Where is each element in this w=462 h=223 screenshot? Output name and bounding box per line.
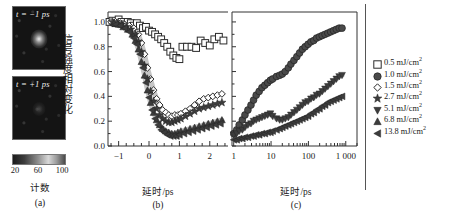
open-diamond-icon bbox=[372, 79, 383, 90]
bragg-spot bbox=[31, 30, 48, 49]
x-tick-label: 1 bbox=[231, 151, 236, 161]
legend-item-label: 2.7 mJ/cm2 bbox=[384, 90, 422, 101]
y-axis-label: 信号强度相对变化 bbox=[58, 34, 72, 114]
x-tick-label: 2 bbox=[208, 151, 213, 161]
filled-down-triangle-icon bbox=[372, 102, 383, 113]
panel-b-canvas: 0.00.20.40.60.81.0−1012 bbox=[86, 8, 230, 164]
legend-unit-exponent: 2 bbox=[419, 90, 422, 96]
panel-c-xlabel: 延时/ps bbox=[280, 184, 311, 198]
legend-item-1[interactable]: 1.0 mJ/cm2 bbox=[372, 67, 460, 78]
bragg-spot-suppressed bbox=[33, 102, 46, 116]
legend-item-label: 0.5 mJ/cm2 bbox=[384, 56, 422, 67]
data-point-open-square-icon bbox=[220, 37, 227, 44]
data-point-open-square-icon bbox=[176, 56, 183, 63]
legend-item-1.5[interactable]: 1.5 mJ/cm2 bbox=[372, 79, 460, 90]
x-tick-label: −1 bbox=[114, 151, 124, 161]
data-point-filled-circle-icon bbox=[339, 25, 346, 32]
legend-item-label: 1.0 mJ/cm2 bbox=[384, 68, 422, 79]
legend-divider bbox=[365, 4, 366, 190]
y-tick-label: 0.4 bbox=[94, 91, 106, 101]
panel-c-label: (c) bbox=[291, 200, 302, 210]
legend-unit-exponent: 2 bbox=[419, 68, 422, 74]
colorbar bbox=[12, 154, 66, 165]
panel-b-xlabel: 延时/ps bbox=[142, 184, 173, 198]
x-tick-label: 10 bbox=[267, 151, 277, 161]
x-tick-label: 1 000 bbox=[336, 151, 357, 161]
colorbar-tick-label: 20 bbox=[11, 165, 20, 175]
legend-item-6.8[interactable]: 6.8 mJ/cm2 bbox=[372, 113, 460, 124]
panel-b-label: (b) bbox=[152, 200, 163, 210]
legend-item-2.7[interactable]: 2.7 mJ/cm2 bbox=[372, 90, 460, 101]
data-point-open-square-icon bbox=[193, 45, 200, 52]
filled-up-triangle-icon bbox=[372, 113, 383, 124]
legend-unit-exponent: 2 bbox=[419, 56, 422, 62]
legend-item-0.5[interactable]: 0.5 mJ/cm2 bbox=[372, 56, 460, 67]
legend-unit-exponent: 2 bbox=[419, 102, 422, 108]
y-tick-label: 0.6 bbox=[94, 67, 106, 77]
panel-a-label: (a) bbox=[0, 198, 80, 208]
x-tick-label: 1 bbox=[177, 151, 182, 161]
legend-item-label: 5.1 mJ/cm2 bbox=[384, 102, 422, 113]
diffraction-image-after-label: t = +1 ps bbox=[16, 79, 50, 89]
y-tick-label: 0.8 bbox=[94, 42, 106, 52]
colorbar-tick-label: 100 bbox=[56, 165, 69, 175]
legend-item-5.1[interactable]: 5.1 mJ/cm2 bbox=[372, 102, 460, 113]
panel-b-plot: 0.00.20.40.60.81.0−1012 bbox=[86, 8, 230, 164]
panel-c-canvas: 1101001 000 bbox=[230, 8, 361, 164]
legend-unit-exponent: 2 bbox=[419, 113, 422, 119]
y-tick-label: 1.0 bbox=[94, 17, 106, 27]
x-tick-label: 0 bbox=[147, 151, 152, 161]
legend-item-label: 13.8 mJ/cm2 bbox=[384, 125, 426, 136]
legend-item-label: 1.5 mJ/cm2 bbox=[384, 79, 422, 90]
colorbar-tick-label: 60 bbox=[34, 165, 43, 175]
figure-root: t = −1 ps t = +1 ps 20 60 100 计数 (a) 信号强… bbox=[0, 0, 462, 223]
filled-left-triangle-icon bbox=[374, 129, 381, 136]
panel-c-plot: 1101001 000 bbox=[230, 8, 361, 164]
legend: 0.5 mJ/cm21.0 mJ/cm21.5 mJ/cm22.7 mJ/cm2… bbox=[372, 56, 460, 136]
fit-guide-curve bbox=[111, 22, 222, 116]
x-tick-label: 100 bbox=[302, 151, 316, 161]
filled-circle-icon bbox=[372, 68, 383, 79]
y-tick-label: 0.2 bbox=[94, 116, 105, 126]
legend-item-label: 6.8 mJ/cm2 bbox=[384, 113, 422, 124]
colorbar-title: 计数 bbox=[0, 180, 80, 194]
open-square-icon bbox=[372, 56, 383, 67]
filled-left-triangle-icon bbox=[372, 125, 383, 136]
diffraction-image-before-label: t = −1 ps bbox=[16, 9, 50, 19]
filled-star-icon bbox=[372, 90, 383, 101]
colorbar-ticks: 20 60 100 bbox=[0, 165, 104, 177]
y-tick-label: 0.0 bbox=[94, 141, 106, 151]
legend-unit-exponent: 2 bbox=[419, 79, 422, 85]
legend-unit-exponent: 2 bbox=[423, 125, 426, 131]
legend-item-13.8[interactable]: 13.8 mJ/cm2 bbox=[372, 124, 460, 135]
